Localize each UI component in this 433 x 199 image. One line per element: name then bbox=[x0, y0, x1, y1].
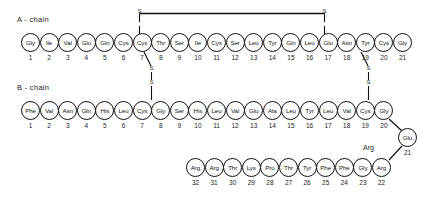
residue-b21[interactable]: Glu bbox=[398, 128, 417, 147]
residue-number-b17: 17 bbox=[319, 122, 338, 129]
residue-number-b26: 26 bbox=[298, 179, 317, 186]
residue-b30[interactable]: Thr bbox=[223, 158, 242, 177]
residue-b19[interactable]: Cys bbox=[356, 101, 375, 120]
residue-number-b9: 9 bbox=[170, 122, 189, 129]
residue-a17[interactable]: Glu bbox=[319, 33, 338, 52]
residue-b29[interactable]: Lys bbox=[242, 158, 261, 177]
residue-a8[interactable]: Thr bbox=[151, 33, 170, 52]
residue-b15[interactable]: Leu bbox=[281, 101, 300, 120]
arg-annotation: Arg bbox=[363, 144, 374, 151]
residue-a11[interactable]: Cys bbox=[207, 33, 226, 52]
residue-number-b30: 30 bbox=[223, 179, 242, 186]
residue-b17[interactable]: Leu bbox=[319, 101, 338, 120]
residue-a5[interactable]: Gln bbox=[95, 33, 114, 52]
residue-b12[interactable]: Val bbox=[226, 101, 245, 120]
b-chain-label: B - chain bbox=[17, 83, 49, 92]
residue-number-b15: 15 bbox=[281, 122, 300, 129]
residue-b14[interactable]: Ala bbox=[263, 101, 282, 120]
residue-number-b27: 27 bbox=[279, 179, 298, 186]
residue-number-b25: 25 bbox=[316, 179, 335, 186]
residue-b3[interactable]: Asn bbox=[58, 101, 77, 120]
residue-a6[interactable]: Cys bbox=[114, 33, 133, 52]
residue-a20[interactable]: Cys bbox=[374, 33, 393, 52]
residue-number-a19: 19 bbox=[356, 54, 375, 61]
residue-a1[interactable]: Gly bbox=[21, 33, 40, 52]
residue-b7[interactable]: Cys bbox=[133, 101, 152, 120]
residue-b5[interactable]: His bbox=[95, 101, 114, 120]
residue-b8[interactable]: Gly bbox=[151, 101, 170, 120]
residue-a18[interactable]: Asn bbox=[337, 33, 356, 52]
residue-b1[interactable]: Phe bbox=[21, 101, 40, 120]
residue-a21[interactable]: Gly bbox=[393, 33, 412, 52]
residue-number-b18: 18 bbox=[337, 122, 356, 129]
residue-b13[interactable]: Glu bbox=[244, 101, 263, 120]
residue-b31[interactable]: Arg bbox=[205, 158, 224, 177]
residue-b28[interactable]: Pro bbox=[260, 158, 279, 177]
residue-b9[interactable]: Ser bbox=[170, 101, 189, 120]
sulfur-label-a20: S bbox=[365, 65, 373, 71]
residue-number-a17: 17 bbox=[319, 54, 338, 61]
residue-number-a9: 9 bbox=[170, 54, 189, 61]
residue-number-b1: 1 bbox=[21, 122, 40, 129]
residue-number-a20: 20 bbox=[374, 54, 393, 61]
residue-number-b6: 6 bbox=[114, 122, 133, 129]
residue-a7[interactable]: Cys bbox=[133, 33, 152, 52]
residue-number-b19: 19 bbox=[356, 122, 375, 129]
residue-number-b13: 13 bbox=[244, 122, 263, 129]
residue-number-b31: 31 bbox=[205, 179, 224, 186]
sulfur-label-a7: S bbox=[148, 65, 156, 71]
residue-b26[interactable]: Tyr bbox=[298, 158, 317, 177]
residue-number-b22: 22 bbox=[372, 179, 391, 186]
residue-number-b7: 7 bbox=[133, 122, 152, 129]
residue-a2[interactable]: Ile bbox=[40, 33, 59, 52]
residue-b23[interactable]: Gly bbox=[353, 158, 372, 177]
residue-b27[interactable]: Thr bbox=[279, 158, 298, 177]
residue-number-a2: 2 bbox=[40, 54, 59, 61]
residue-number-a5: 5 bbox=[95, 54, 114, 61]
residue-a9[interactable]: Ser bbox=[170, 33, 189, 52]
insulin-structure-diagram: A - chain B - chain S S S S S S Gly1Ile2… bbox=[0, 0, 433, 199]
residue-number-b11: 11 bbox=[207, 122, 226, 129]
residue-b16[interactable]: Tyr bbox=[300, 101, 319, 120]
a-chain-label: A - chain bbox=[17, 15, 49, 24]
residue-number-a18: 18 bbox=[337, 54, 356, 61]
residue-number-b29: 29 bbox=[242, 179, 261, 186]
sulfur-label-a11: S bbox=[321, 8, 329, 14]
residue-b20[interactable]: Gly bbox=[374, 101, 393, 120]
residue-a16[interactable]: Leu bbox=[300, 33, 319, 52]
residue-b24[interactable]: Phe bbox=[335, 158, 354, 177]
residue-number-a16: 16 bbox=[300, 54, 319, 61]
residue-number-b10: 10 bbox=[188, 122, 207, 129]
residue-b4[interactable]: Gln bbox=[77, 101, 96, 120]
residue-number-a4: 4 bbox=[77, 54, 96, 61]
residue-b6[interactable]: Leu bbox=[114, 101, 133, 120]
residue-a19[interactable]: Tyr bbox=[356, 33, 375, 52]
residue-number-b5: 5 bbox=[95, 122, 114, 129]
residue-b2[interactable]: Val bbox=[40, 101, 59, 120]
residue-b22[interactable]: Arg bbox=[372, 158, 391, 177]
residue-a3[interactable]: Val bbox=[58, 33, 77, 52]
residue-a14[interactable]: Tyr bbox=[263, 33, 282, 52]
residue-b18[interactable]: Val bbox=[337, 101, 356, 120]
residue-b25[interactable]: Phe bbox=[316, 158, 335, 177]
residue-a10[interactable]: Ile bbox=[188, 33, 207, 52]
residue-b32[interactable]: Arg bbox=[186, 158, 205, 177]
residue-b11[interactable]: Leu bbox=[207, 101, 226, 120]
residue-number-a8: 8 bbox=[151, 54, 170, 61]
residue-number-b12: 12 bbox=[226, 122, 245, 129]
residue-a12[interactable]: Ser bbox=[226, 33, 245, 52]
residue-b10[interactable]: His bbox=[188, 101, 207, 120]
residue-a4[interactable]: Glu bbox=[77, 33, 96, 52]
sulfur-label-a6: S bbox=[136, 8, 144, 14]
residue-number-a1: 1 bbox=[21, 54, 40, 61]
residue-number-a11: 11 bbox=[207, 54, 226, 61]
residue-number-a14: 14 bbox=[263, 54, 282, 61]
residue-number-b32: 32 bbox=[186, 179, 205, 186]
residue-a13[interactable]: Leu bbox=[244, 33, 263, 52]
residue-number-b8: 8 bbox=[151, 122, 170, 129]
residue-a15[interactable]: Gln bbox=[281, 33, 300, 52]
residue-number-b20: 20 bbox=[374, 122, 393, 129]
residue-number-b14: 14 bbox=[263, 122, 282, 129]
residue-number-b21: 21 bbox=[398, 149, 417, 156]
residue-number-b4: 4 bbox=[77, 122, 96, 129]
